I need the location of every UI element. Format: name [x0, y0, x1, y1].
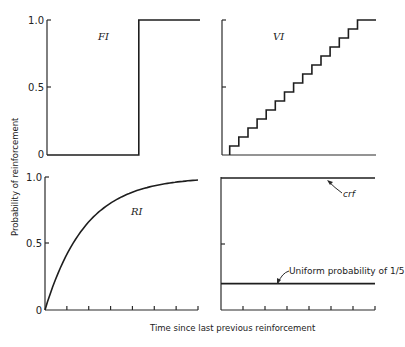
panel-crf-uniform: crf Uniform probability of 1/5	[221, 177, 405, 310]
crf-label: crf	[343, 189, 357, 199]
vi-label: VI	[273, 31, 285, 42]
panel-vi: VI	[222, 20, 376, 155]
uniform-label: Uniform probability of 1/5	[289, 266, 405, 276]
vi-staircase	[230, 20, 376, 155]
fi-line	[47, 20, 200, 155]
fi-ytick-label-05: 0.5	[28, 82, 44, 93]
fi-ytick-label-0: 0	[38, 149, 44, 160]
ri-ytick-label-05: 0.5	[26, 238, 42, 249]
ri-label: RI	[130, 206, 144, 217]
fi-label: FI	[97, 31, 110, 42]
ri-ytick-label-1: 1.0	[26, 172, 42, 183]
y-axis-title: Probability of reinforcement	[10, 117, 20, 236]
ri-curve	[45, 180, 198, 310]
fi-ytick-label-1: 1.0	[28, 15, 44, 26]
ri-ytick-label-0: 0	[36, 305, 42, 316]
panel-fi: 1.0 0.5 0 FI	[28, 15, 200, 160]
x-axis-title: Time since last previous reinforcement	[149, 323, 316, 333]
panel-ri: 1.0 0.5 0 RI	[26, 172, 198, 316]
schedule-figure: 1.0 0.5 0 FI VI Probability of reinforce…	[0, 0, 405, 347]
